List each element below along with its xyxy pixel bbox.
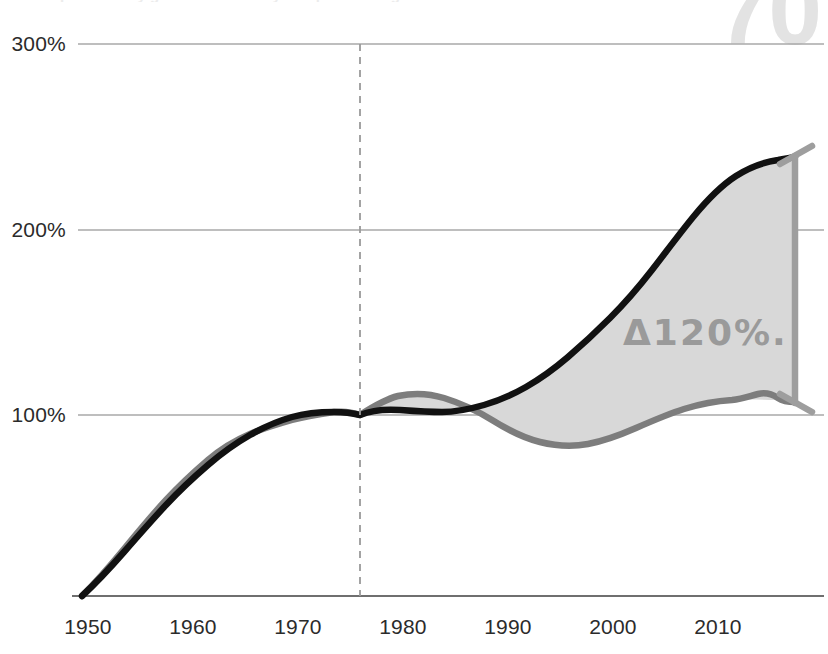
y-tick-label-100: 100% (2, 403, 66, 427)
y-tick-label-200: 200% (2, 218, 66, 242)
series-hourly-compensation (82, 393, 795, 596)
x-tick-label-1970: 1970 (253, 615, 343, 639)
delta-annotation-label: Δ120%. (623, 312, 788, 353)
x-tick-label-1980: 1980 (358, 615, 448, 639)
y-tick-label-300: 300% (2, 32, 66, 56)
x-tick-label-2000: 2000 (568, 615, 658, 639)
x-tick-label-2010: 2010 (673, 615, 763, 639)
x-tick-label-1990: 1990 (463, 615, 553, 639)
x-tick-label-1950: 1950 (43, 615, 133, 639)
chart-root: productivity growth and hourly compensat… (0, 0, 828, 654)
x-tick-label-1960: 1960 (148, 615, 238, 639)
